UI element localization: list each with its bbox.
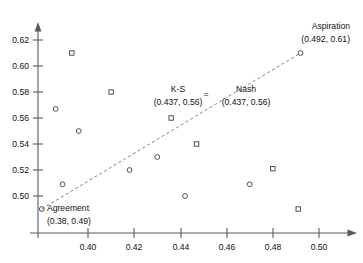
x-tick-label-0: 0.40	[80, 242, 97, 252]
aspiration-label: Aspiration	[312, 21, 350, 31]
y-axis-arrow-icon	[35, 22, 42, 32]
data-point-square	[169, 116, 173, 120]
data-point-circle	[53, 107, 58, 112]
data-point-circle	[298, 51, 303, 56]
x-tick-label-2: 0.44	[173, 242, 190, 252]
ks-label: K-S	[171, 84, 186, 94]
data-point-circle	[247, 182, 252, 187]
plot-canvas: 0.50 0.52 0.54 0.56 0.58 0.60 0.62 0.40 …	[0, 0, 363, 263]
data-point-circle	[39, 207, 44, 212]
data-markers	[39, 51, 303, 212]
nash-coords: (0.437, 0.56)	[222, 97, 271, 107]
data-point-square	[194, 142, 198, 146]
x-axis-arrow-icon	[348, 230, 358, 237]
y-tick-labels: 0.50 0.52 0.54 0.56 0.58 0.60 0.62	[12, 35, 29, 201]
agreement-label: Agreement	[47, 203, 90, 213]
data-point-circle	[155, 155, 160, 160]
data-point-square	[109, 90, 113, 94]
annotation-ks: K-S (0.437, 0.56)	[154, 84, 203, 107]
x-axis	[30, 230, 357, 237]
x-tick-label-3: 0.46	[219, 242, 236, 252]
annotation-nash: Nash (0.437, 0.56)	[222, 84, 271, 107]
x-tick-label-1: 0.42	[126, 242, 143, 252]
agreement-coords: (0.38, 0.49)	[47, 216, 91, 226]
y-tick-label-6: 0.62	[12, 35, 29, 45]
annotation-agreement: Agreement (0.38, 0.49)	[47, 203, 91, 226]
data-point-square	[296, 207, 300, 211]
ks-coords: (0.437, 0.56)	[154, 97, 203, 107]
aspiration-coords: (0.492, 0.61)	[301, 34, 350, 44]
equals-sign-label: =	[203, 89, 208, 99]
y-tick-label-3: 0.56	[12, 113, 29, 123]
data-point-circle	[127, 168, 132, 173]
y-tick-label-0: 0.50	[12, 191, 29, 201]
data-point-circle	[183, 194, 188, 199]
trend-line	[42, 53, 301, 209]
y-tick-label-4: 0.58	[12, 87, 29, 97]
x-tick-label-5: 0.50	[311, 242, 328, 252]
data-point-circle	[76, 129, 81, 134]
scatter-plot-figure: 0.50 0.52 0.54 0.56 0.58 0.60 0.62 0.40 …	[0, 0, 363, 263]
nash-label: Nash	[236, 84, 256, 94]
y-tick-label-5: 0.60	[12, 61, 29, 71]
y-tick-label-1: 0.52	[12, 165, 29, 175]
y-axis	[35, 22, 42, 238]
data-point-circle	[60, 182, 65, 187]
data-point-square	[271, 167, 275, 171]
x-tick-labels: 0.40 0.42 0.44 0.46 0.48 0.50	[80, 242, 328, 252]
annotation-aspiration: Aspiration (0.492, 0.61)	[301, 21, 350, 44]
x-tick-label-4: 0.48	[265, 242, 282, 252]
y-tick-label-2: 0.54	[12, 139, 29, 149]
data-point-square	[70, 51, 74, 55]
